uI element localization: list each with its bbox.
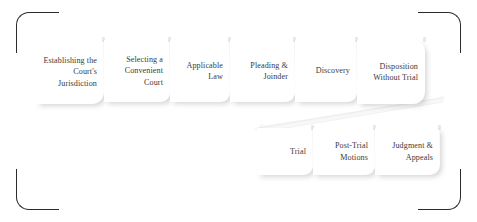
trial-row: Trial Post-Trial Motions Judgment & Appe… (257, 128, 440, 175)
step-applicable-law[interactable]: Applicable Law (170, 40, 230, 102)
step-post-trial-motions[interactable]: Post-Trial Motions (313, 128, 375, 175)
step-label: Selecting a Convenient Court (110, 54, 163, 88)
bracket-bottom-right-icon (418, 169, 461, 210)
step-pleading-joinder[interactable]: Pleading & Joinder (230, 40, 295, 102)
step-label: Pleading & Joinder (236, 60, 288, 82)
bracket-bottom-left-icon (16, 169, 59, 210)
step-label: Disposition Without Trial (363, 61, 418, 83)
step-establishing-jurisdiction[interactable]: Establishing the Court's Jurisdiction (36, 40, 104, 104)
step-label: Establishing the Court's Jurisdiction (42, 55, 97, 89)
step-label: Judgment & Appeals (381, 140, 433, 162)
step-tick-icon (423, 37, 426, 42)
step-discovery[interactable]: Discovery (295, 40, 357, 102)
flow-diagram: Establishing the Court's Jurisdiction Se… (0, 0, 477, 222)
step-label: Discovery (301, 65, 350, 76)
step-trial[interactable]: Trial (257, 128, 313, 175)
pretrial-row: Establishing the Court's Jurisdiction Se… (36, 40, 425, 104)
step-selecting-convenient-court[interactable]: Selecting a Convenient Court (104, 40, 170, 102)
step-edge (439, 128, 440, 175)
step-label: Post-Trial Motions (319, 140, 368, 162)
step-judgment-appeals[interactable]: Judgment & Appeals (375, 128, 440, 175)
step-label: Trial (263, 146, 306, 157)
step-disposition-without-trial[interactable]: Disposition Without Trial (357, 40, 425, 104)
step-label: Applicable Law (176, 60, 223, 82)
